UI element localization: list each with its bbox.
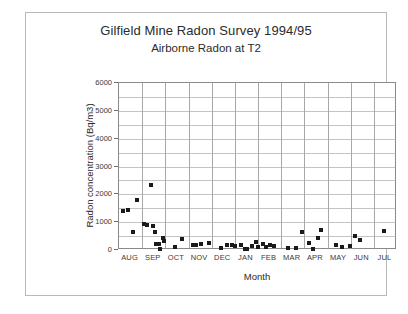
y-tick-label: 0 xyxy=(78,245,112,254)
data-point xyxy=(311,247,315,251)
gridline-vertical xyxy=(258,83,259,248)
gridline-horizontal xyxy=(119,167,395,168)
plot-area xyxy=(118,82,396,249)
x-axis-title: Month xyxy=(118,271,396,282)
data-point xyxy=(219,246,223,250)
data-point xyxy=(353,234,357,238)
chart-title: Gilfield Mine Radon Survey 1994/95 xyxy=(26,23,386,38)
gridline-horizontal xyxy=(119,153,395,154)
data-point xyxy=(149,183,153,187)
chart-subtitle: Airborne Radon at T2 xyxy=(26,42,386,54)
gridline-horizontal xyxy=(119,208,395,209)
data-point xyxy=(340,245,344,249)
x-tick-label: JUL xyxy=(367,253,401,262)
gridline-vertical xyxy=(281,83,282,248)
gridline-horizontal xyxy=(119,222,395,223)
data-point xyxy=(126,208,130,212)
data-point xyxy=(272,244,276,248)
gridline-horizontal xyxy=(119,125,395,126)
gridline-vertical xyxy=(189,83,190,248)
data-point xyxy=(307,241,311,245)
data-point xyxy=(151,224,155,228)
data-point xyxy=(316,236,320,240)
data-point xyxy=(358,238,362,242)
y-tick-label: 2000 xyxy=(78,189,112,198)
gridline-vertical xyxy=(235,83,236,248)
data-point xyxy=(245,247,249,251)
y-tick-mark xyxy=(114,249,118,250)
gridline-horizontal xyxy=(119,139,395,140)
data-point xyxy=(286,246,290,250)
gridline-horizontal xyxy=(119,97,395,98)
data-point xyxy=(135,198,139,202)
data-point xyxy=(382,229,386,233)
y-tick-label: 4000 xyxy=(78,133,112,142)
gridline-horizontal xyxy=(119,180,395,181)
gridline-vertical xyxy=(328,83,329,248)
data-point xyxy=(294,246,298,250)
data-point xyxy=(121,209,125,213)
data-point xyxy=(131,230,135,234)
gridline-vertical xyxy=(212,83,213,248)
data-point xyxy=(250,244,254,248)
data-point xyxy=(157,242,161,246)
data-point xyxy=(173,245,177,249)
data-point xyxy=(334,243,338,247)
y-tick-label: 5000 xyxy=(78,105,112,114)
data-point xyxy=(158,247,162,251)
data-point xyxy=(300,230,304,234)
gridline-vertical xyxy=(351,83,352,248)
data-point xyxy=(348,244,352,248)
data-point xyxy=(256,245,260,249)
gridline-horizontal xyxy=(119,194,395,195)
data-point xyxy=(199,242,203,246)
data-point xyxy=(145,223,149,227)
data-point xyxy=(319,228,323,232)
data-point xyxy=(162,239,166,243)
figure-frame: Gilfield Mine Radon Survey 1994/95 Airbo… xyxy=(25,12,387,296)
y-tick-label: 3000 xyxy=(78,161,112,170)
data-point xyxy=(180,237,184,241)
y-tick-label: 6000 xyxy=(78,78,112,87)
data-point xyxy=(254,240,258,244)
gridline-vertical xyxy=(165,83,166,248)
data-point xyxy=(225,243,229,247)
data-point xyxy=(233,244,237,248)
gridline-horizontal xyxy=(119,111,395,112)
data-point xyxy=(153,230,157,234)
gridline-vertical xyxy=(374,83,375,248)
data-point xyxy=(207,241,211,245)
gridline-vertical xyxy=(304,83,305,248)
y-tick-label: 1000 xyxy=(78,217,112,226)
